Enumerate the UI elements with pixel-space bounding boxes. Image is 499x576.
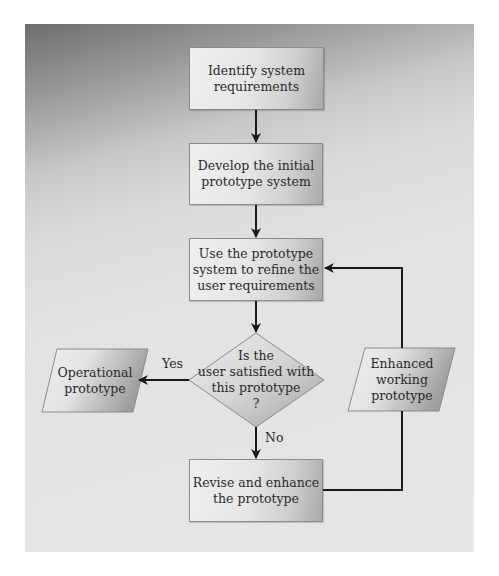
feedback-line-lower — [323, 411, 402, 490]
identify-requirements-box: Identify system requirements — [189, 47, 324, 110]
feedback-line-upper — [325, 268, 402, 348]
enhanced-prototype-text: Enhanced working prototype — [354, 350, 450, 410]
identify-requirements-text: Identify system requirements — [208, 63, 305, 95]
develop-prototype-text: Develop the initial prototype system — [198, 158, 314, 190]
refine-requirements-text: Use the prototype system to refine the u… — [193, 246, 319, 294]
revise-enhance-box: Revise and enhance the prototype — [189, 459, 323, 522]
no-label: No — [265, 431, 283, 445]
decision-text: Is the user satisfied with this prototyp… — [196, 340, 316, 420]
revise-enhance-text: Revise and enhance the prototype — [193, 475, 320, 507]
yes-label: Yes — [162, 357, 183, 371]
develop-prototype-box: Develop the initial prototype system — [189, 143, 323, 205]
operational-prototype-text: Operational prototype — [48, 352, 142, 410]
refine-requirements-box: Use the prototype system to refine the u… — [189, 238, 323, 301]
